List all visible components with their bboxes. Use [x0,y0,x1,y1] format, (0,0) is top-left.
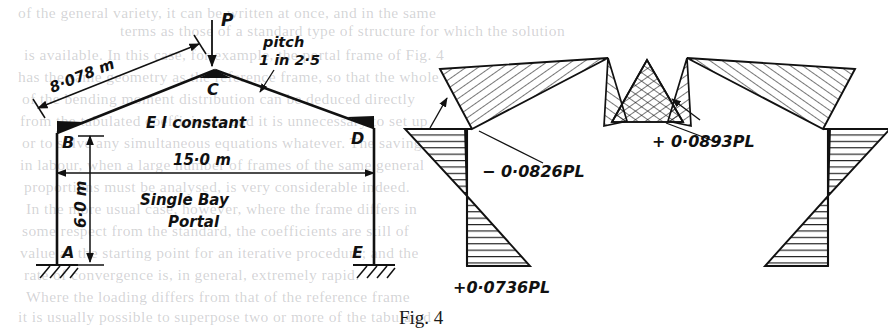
frame-description-line2: Portal [168,213,220,231]
eaves-moment-leader [479,131,543,163]
span-label: 15·0 m [173,151,231,169]
frame-description-line1: Single Bay [140,191,230,209]
load-label-P: P [221,10,234,30]
height-label: 6·0 m [72,181,90,228]
bmd-eaves-arrow-left [430,98,447,128]
node-label-D: D [351,129,364,148]
bmd-apex-peak [612,60,683,122]
node-label-A: A [60,243,74,262]
bmd-left-column-lower [467,196,530,266]
bmd-right-column-lower [765,196,828,266]
node-label-E: E [352,243,363,262]
node-label-B: B [62,133,74,152]
stiffness-label: E I constant [146,114,247,132]
figure-page: of the general variety, it can be writte… [0,0,888,333]
figure-caption: Fig. 4 [399,307,444,328]
haunch-B [57,121,84,133]
bmd-left-rafter [440,58,608,129]
node-label-C: C [207,80,219,99]
bmd-right-column-upper [828,129,888,196]
bmd-left-column-upper [405,129,467,196]
base-moment-label: +0·0736PL [453,278,550,297]
eaves-moment-label: − 0·0826PL [482,162,585,181]
apex-moment-label: + 0·0893PL [652,132,755,151]
support-A [36,265,78,278]
pitch-label-line2: 1 in 2·5 [259,52,320,68]
haunch-D [347,116,374,128]
pitch-label-line1: pitch [262,34,304,50]
support-E [353,265,395,278]
figure-4-svg: P 8·078 m pitch 1 in 2·5 E I constant 15… [0,0,888,333]
bmd-right-rafter [687,58,855,129]
